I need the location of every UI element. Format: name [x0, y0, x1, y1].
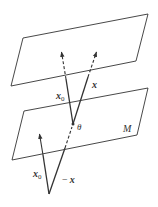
label-x0-lower: x0 [32, 168, 42, 181]
vector-x0-upper [62, 52, 74, 124]
label-x0-upper: x0 [55, 90, 65, 103]
label-theta: θ [77, 122, 82, 132]
label-m: M [122, 123, 132, 134]
plane-v [11, 14, 148, 86]
label-x-upper: x [91, 79, 97, 90]
vector-x0-lower [40, 134, 50, 194]
label-neg-x: −x [62, 174, 75, 185]
diagram-canvas: x0 x θ M x0 −x [0, 0, 158, 207]
